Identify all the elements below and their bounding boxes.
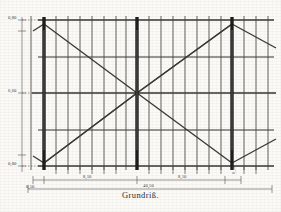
drawing-sheet: 0,80 6,60 0,80 8,10 8,10 40,50 0,50 0,50… xyxy=(0,0,281,212)
bay-dimension-chain xyxy=(33,176,241,184)
vertical-dim-label-bottom: 0,80 xyxy=(8,161,16,166)
brace-upper-left-to-center xyxy=(44,24,137,93)
vertical-dim-label-top: 0,80 xyxy=(8,15,16,20)
overall-dim-label: 40,50 xyxy=(143,183,154,188)
bottom-tick-row xyxy=(56,166,256,174)
brace-upper-right-down xyxy=(137,24,232,93)
floor-plan-drawing xyxy=(0,0,281,212)
end-dim-label-left: 0,50 xyxy=(26,184,34,189)
brace-stub-bottom-right xyxy=(232,139,276,163)
bay-dim-label-left: 8,10 xyxy=(83,174,91,179)
brace-lower-left-to-center xyxy=(44,93,137,163)
figure-caption: Grundriß. xyxy=(0,190,281,200)
brace-stub-top-right xyxy=(232,24,276,48)
bay-dim-label-right: 8,10 xyxy=(178,174,186,179)
end-dim-label-right: 0,50 xyxy=(231,166,236,174)
vertical-dimension-chain xyxy=(18,17,40,172)
vertical-dim-label-middle: 6,60 xyxy=(8,88,16,93)
brace-center-to-lower-right xyxy=(137,93,232,163)
